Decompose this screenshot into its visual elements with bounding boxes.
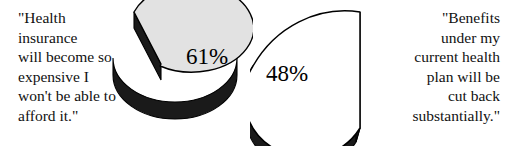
right-quote-text: "Benefits under my current health plan w… [360,8,500,125]
right-pie-percent-label: 48% [266,62,308,85]
left-pie-svg [108,0,253,146]
figure-canvas: "Health insurance will become so expensi… [0,0,508,146]
left-pie-chart [108,0,253,146]
left-pie-percent-label: 61% [186,45,228,68]
